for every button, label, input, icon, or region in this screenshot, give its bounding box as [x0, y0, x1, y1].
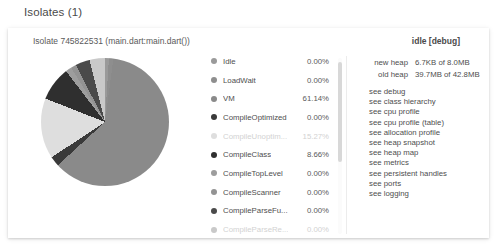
isolate-links-list: see debugsee class hierarchysee cpu prof…: [369, 87, 489, 199]
legend-scrollbar[interactable]: [338, 58, 342, 234]
legend-label: CompileParseRe...: [223, 225, 288, 234]
isolate-title: Isolate 745822531 (main.dart:main.dart()…: [33, 36, 190, 46]
legend-color-swatch-icon: [211, 58, 217, 64]
legend-color-swatch-icon: [211, 227, 217, 233]
page-title: Isolates (1): [24, 6, 82, 18]
isolate-link[interactable]: see class hierarchy: [369, 97, 489, 107]
legend-label: CompileOptimized: [223, 113, 287, 122]
isolate-link[interactable]: see logging: [369, 189, 489, 199]
legend-value: 0.00%: [307, 57, 329, 66]
legend-label: VM: [223, 94, 235, 103]
isolate-card-header: Isolate 745822531 (main.dart:main.dart()…: [8, 28, 489, 54]
isolate-pie-chart: [26, 54, 201, 234]
heap-row: new heap6.7KB of 8.0MB: [356, 58, 489, 70]
legend-row[interactable]: CompileParseRe...0.00%: [205, 220, 335, 238]
legend-scrollbar-thumb[interactable]: [338, 62, 342, 162]
legend-label: Idle: [223, 57, 236, 66]
heap-value: 6.7KB of 8.0MB: [415, 58, 470, 67]
legend-label: CompileScanner: [223, 188, 281, 197]
legend-row[interactable]: LoadWait0.00%: [205, 71, 335, 90]
isolate-link[interactable]: see heap map: [369, 148, 489, 158]
legend-row[interactable]: CompileTopLevel0.00%: [205, 164, 335, 183]
isolate-card: Isolate 745822531 (main.dart:main.dart()…: [8, 28, 489, 238]
legend-row[interactable]: CompileOptimized0.00%: [205, 108, 335, 127]
isolate-link[interactable]: see debug: [369, 87, 489, 97]
pie-graphic: [41, 58, 169, 186]
heap-row: old heap39.7MB of 42.8MB: [356, 70, 489, 82]
legend-row[interactable]: CompileUnoptim...15.27%: [205, 127, 335, 146]
legend-row[interactable]: Idle0.00%: [205, 52, 335, 71]
legend-value: 15.27%: [303, 132, 329, 141]
legend-label: CompileParseFu...: [223, 206, 288, 215]
legend-color-swatch-icon: [211, 77, 217, 83]
heap-table: new heap6.7KB of 8.0MBold heap39.7MB of …: [356, 58, 489, 81]
isolate-link[interactable]: see heap snapshot: [369, 138, 489, 148]
panel-divider: [346, 56, 347, 234]
isolate-link[interactable]: see persistent handles: [369, 169, 489, 179]
legend-value: 0.00%: [307, 113, 329, 122]
isolate-link[interactable]: see ports: [369, 179, 489, 189]
pie-legend: Idle0.00%LoadWait0.00%VM61.14%CompileOpt…: [205, 52, 335, 238]
legend-label: CompileTopLevel: [223, 169, 283, 178]
legend-label: CompileUnoptim...: [223, 132, 287, 141]
legend-row[interactable]: CompileScanner0.00%: [205, 183, 335, 202]
legend-color-swatch-icon: [211, 170, 217, 176]
legend-value: 0.00%: [307, 169, 329, 178]
heap-name: old heap: [356, 70, 408, 79]
legend-color-swatch-icon: [211, 189, 217, 195]
legend-label: LoadWait: [223, 76, 256, 85]
isolate-link[interactable]: see metrics: [369, 158, 489, 168]
legend-value: 0.00%: [307, 76, 329, 85]
heap-name: new heap: [356, 58, 408, 67]
isolate-link[interactable]: see cpu profile: [369, 107, 489, 117]
legend-color-swatch-icon: [211, 208, 217, 214]
legend-row[interactable]: VM61.14%: [205, 89, 335, 108]
legend-color-swatch-icon: [211, 152, 217, 158]
isolate-link[interactable]: see allocation profile: [369, 128, 489, 138]
legend-value: 61.14%: [303, 94, 329, 103]
legend-row[interactable]: CompileClass8.66%: [205, 145, 335, 164]
isolate-link[interactable]: see cpu profile (table): [369, 118, 489, 128]
legend-value: 0.00%: [307, 225, 329, 234]
legend-color-swatch-icon: [211, 114, 217, 120]
legend-value: 0.00%: [307, 188, 329, 197]
legend-row[interactable]: CompileParseFu...0.00%: [205, 202, 335, 221]
isolate-info-panel: new heap6.7KB of 8.0MBold heap39.7MB of …: [356, 54, 489, 238]
legend-label: CompileClass: [223, 150, 271, 159]
heap-value: 39.7MB of 42.8MB: [415, 70, 480, 79]
isolate-status-badge: idle [debug]: [412, 36, 460, 46]
legend-color-swatch-icon: [211, 133, 217, 139]
legend-color-swatch-icon: [211, 96, 217, 102]
legend-value: 0.00%: [307, 206, 329, 215]
legend-value: 8.66%: [307, 150, 329, 159]
